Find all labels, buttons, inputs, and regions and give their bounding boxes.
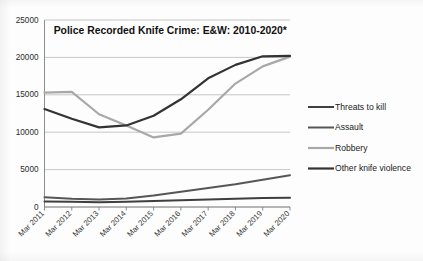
legend-label-threats-to-kill: Threats to kill <box>335 102 386 112</box>
y-axis-tick-label: 5000 <box>20 165 39 174</box>
chart-axes <box>45 20 291 207</box>
gridlines <box>45 20 291 207</box>
legend-label-assault: Assault <box>335 122 364 132</box>
x-axis-tick-label: Mar 2015 <box>125 209 155 239</box>
series-line-other-knife-violence <box>45 56 291 127</box>
x-axis-tick-label: Mar 2014 <box>98 209 128 239</box>
x-axis-tick-label: Mar 2018 <box>207 209 237 239</box>
series-line-assault <box>45 175 291 199</box>
y-axis-tick-label: 20000 <box>16 53 39 62</box>
y-axis-tick-label: 10000 <box>16 128 39 137</box>
y-axis-tick-labels: 0500010000150002000025000 <box>16 16 39 212</box>
x-axis-tick-label: Mar 2016 <box>153 209 183 239</box>
x-axis-tick-label: Mar 2020 <box>262 209 292 239</box>
legend-label-robbery: Robbery <box>335 143 368 153</box>
x-axis-tick-label: Mar 2012 <box>44 209 74 239</box>
series-line-robbery <box>45 57 291 138</box>
y-axis-tick-label: 15000 <box>16 90 39 99</box>
x-axis-tick-label: Mar 2013 <box>71 209 101 239</box>
x-axis-tickmarks <box>45 207 291 211</box>
chart-legend: Threats to killAssaultRobberyOther knife… <box>308 102 411 174</box>
x-axis-tick-label: Mar 2019 <box>234 209 264 239</box>
chart-container: 0500010000150002000025000 Mar 2011Mar 20… <box>0 0 423 261</box>
knife-crime-line-chart: 0500010000150002000025000 Mar 2011Mar 20… <box>0 0 423 261</box>
legend-label-other-knife-violence: Other knife violence <box>335 163 411 173</box>
x-axis-tick-label: Mar 2017 <box>180 209 210 239</box>
y-axis-tick-label: 25000 <box>16 16 39 25</box>
data-series-lines <box>45 56 291 202</box>
x-axis-tick-label: Mar 2011 <box>17 209 46 238</box>
x-axis-tick-labels: Mar 2011Mar 2012Mar 2013Mar 2014Mar 2015… <box>17 209 292 239</box>
chart-title: Police Recorded Knife Crime: E&W: 2010-2… <box>54 25 288 36</box>
